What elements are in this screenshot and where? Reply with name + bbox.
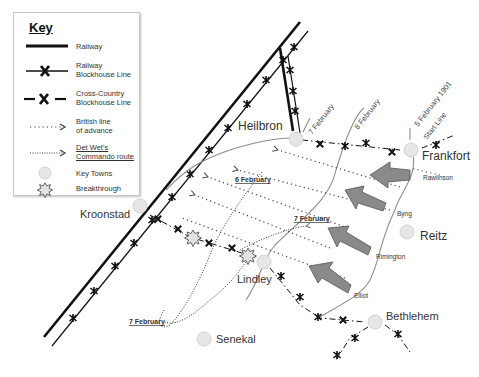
date-label-8feb: 8 February (352, 97, 382, 131)
town-lindley (257, 255, 271, 269)
legend-label-railway: Railway (76, 42, 102, 51)
legend-title: Key (29, 20, 53, 35)
railway-branch-heilbron (280, 48, 300, 133)
fine-dotted-arrow-icon (22, 143, 72, 163)
label-lindley: Lindley (237, 273, 272, 285)
arrow-byng (345, 186, 386, 211)
cross-country-blockhouse-icon (22, 89, 72, 109)
towns (133, 132, 418, 346)
label-bethlehem: Bethlehem (386, 310, 439, 322)
map-legend: Key Railway RailwayBlockhouse Line Cross… (13, 12, 140, 196)
label-senekal: Senekal (216, 333, 256, 345)
legend-label-cross-country-blockhouse: Cross-CountryBlockhouse Line (76, 89, 131, 107)
town-circle-icon (22, 165, 72, 181)
label-byng: Byng (397, 210, 412, 218)
legend-label-british-advance: British lineof advance (76, 117, 113, 135)
date-label-6feb: 6 February (235, 176, 271, 184)
town-reitz (400, 225, 414, 239)
legend-label-railway-blockhouse: RailwayBlockhouse Line (76, 61, 131, 79)
cross-country-blockhouse-bethlehem-south (334, 325, 411, 360)
label-kroonstad: Kroonstad (80, 208, 130, 220)
legend-label-key-towns: Key Towns (76, 169, 112, 178)
legend-label-commando-route: Det Wet'sCommando route (76, 143, 134, 161)
date-label-7feb-top: 7 February (306, 102, 336, 136)
legend-label-breakthrough: Breakthrough (76, 184, 121, 193)
arrow-rawlinson (370, 162, 410, 188)
town-senekal (197, 332, 211, 346)
date-label-7feb-mid: 7 February (294, 215, 330, 223)
label-rawlinson: Rawlinson (423, 174, 453, 181)
label-elliot: Elliot (354, 292, 368, 299)
town-frankfort (404, 143, 418, 157)
town-bethlehem (368, 315, 382, 329)
town-kroonstad (133, 199, 147, 213)
british-column-arrows (309, 162, 410, 293)
date-label-7feb-bottom: 7 February (129, 318, 165, 326)
arrow-rimington (328, 226, 371, 255)
dotted-arrow-icon (22, 117, 72, 137)
breakthrough-markers (185, 230, 257, 265)
label-rimington: Rimington (376, 253, 406, 261)
label-reitz: Reitz (420, 229, 447, 243)
label-heilbron: Heilbron (238, 119, 283, 133)
label-frankfort: Frankfort (422, 149, 471, 163)
railway-blockhouse-icon (22, 61, 72, 81)
railway-line-icon (22, 39, 72, 53)
town-heilbron (289, 132, 303, 146)
breakthrough-burst-icon (22, 181, 72, 199)
cross-country-blockhouse-kroonstad-lindley (150, 215, 258, 258)
